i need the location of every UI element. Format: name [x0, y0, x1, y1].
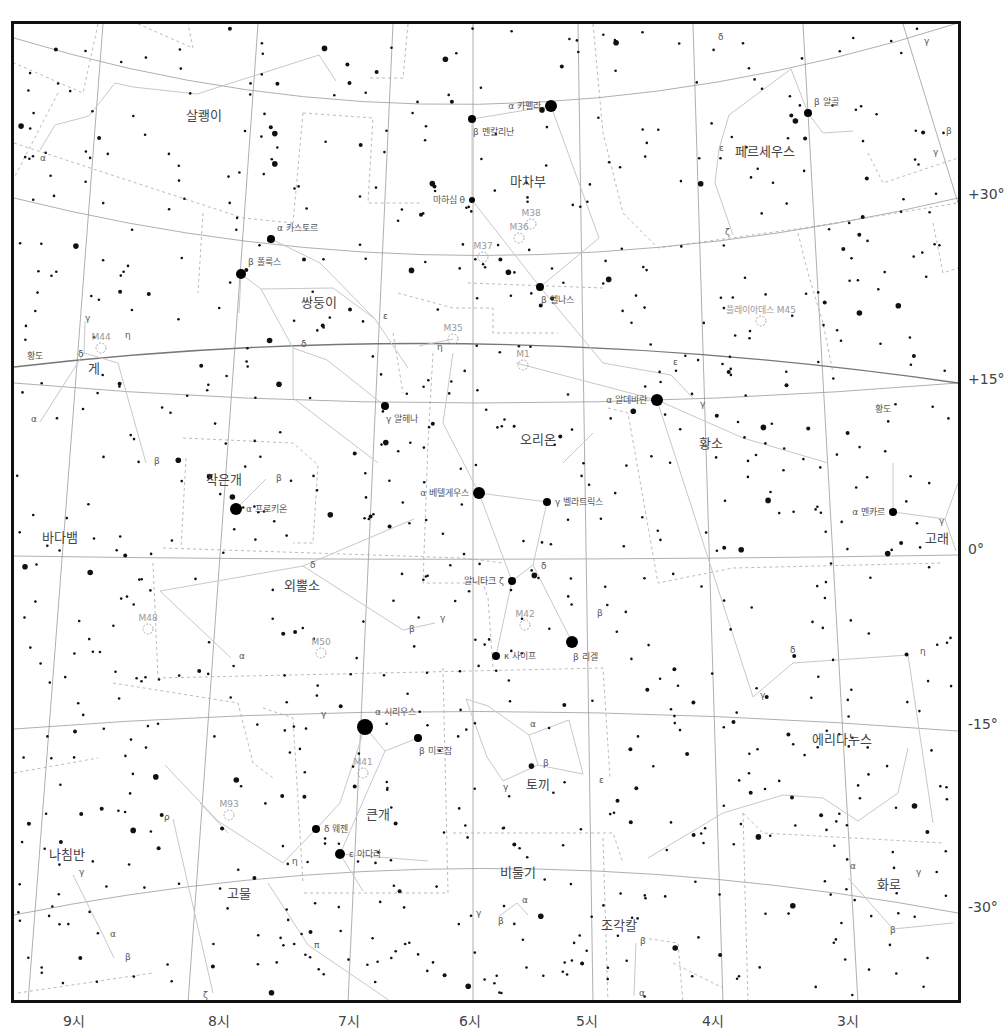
star: [417, 616, 420, 619]
star: [244, 130, 247, 133]
star: [284, 729, 287, 732]
star: [397, 450, 400, 453]
star: [738, 547, 744, 553]
star: [946, 642, 949, 645]
star: [59, 783, 62, 786]
star: [422, 578, 425, 581]
star: [621, 310, 624, 313]
star: [73, 756, 76, 759]
star: [124, 811, 127, 814]
right-ascension-label: 4시: [702, 1010, 724, 1030]
star: [79, 812, 83, 816]
star: [425, 519, 428, 522]
star: [157, 846, 161, 850]
star: [262, 52, 265, 55]
named-star: [545, 100, 557, 112]
star: [623, 545, 626, 548]
star: [950, 685, 953, 688]
star: [390, 957, 393, 960]
star: [45, 812, 48, 815]
star: [55, 270, 58, 273]
star: [786, 733, 790, 737]
star: [372, 513, 375, 516]
star: [423, 446, 426, 449]
star: [87, 503, 90, 506]
star: [225, 442, 228, 445]
star: [316, 684, 319, 687]
star: [362, 620, 365, 623]
star: [302, 627, 305, 630]
star: [567, 595, 570, 598]
star: [674, 722, 677, 725]
star: [316, 489, 319, 492]
greek-letter-label: γ: [916, 867, 922, 877]
star: [607, 966, 610, 969]
star: [388, 480, 391, 483]
star: [383, 151, 386, 154]
named-star: [566, 636, 578, 648]
star: [132, 115, 135, 118]
star: [56, 417, 59, 420]
declination-label: +30°: [968, 186, 1005, 202]
star: [785, 202, 788, 205]
star: [647, 644, 650, 647]
constellation-name: 게: [88, 361, 100, 376]
star: [285, 701, 288, 704]
star: [625, 611, 628, 614]
star: [895, 972, 898, 975]
named-star: [312, 825, 320, 833]
star: [73, 243, 79, 249]
star: [748, 752, 751, 755]
star: [691, 393, 694, 396]
star: [58, 863, 61, 866]
greek-letter-label: η: [437, 342, 443, 352]
star: [649, 343, 652, 346]
star: [582, 462, 585, 465]
star: [50, 757, 53, 760]
star: [449, 564, 452, 567]
star: [711, 672, 714, 675]
star: [161, 406, 164, 409]
star: [58, 893, 61, 896]
deep-sky-label: M42: [515, 609, 534, 619]
star: [245, 360, 248, 363]
star: [259, 456, 262, 459]
star: [803, 170, 806, 173]
star: [333, 94, 336, 97]
star: [312, 475, 315, 478]
star: [279, 937, 282, 940]
star: [606, 277, 612, 283]
star: [363, 517, 366, 520]
star: [129, 792, 132, 795]
star: [696, 81, 699, 84]
star: [936, 643, 939, 646]
star: [771, 422, 774, 425]
named-stars: α 카펠라β 멘칼리난마하심 θβ 알골α 카스토르β 폴룩스β 엘나스γ 알헤…: [230, 97, 897, 859]
star: [390, 859, 393, 862]
star: [328, 512, 334, 518]
star: [850, 688, 853, 691]
star: [916, 522, 919, 525]
star: [846, 824, 849, 827]
star: [32, 514, 35, 517]
star: [166, 963, 169, 966]
star: [220, 826, 224, 830]
star: [824, 880, 827, 883]
star-name-label: 알니타크 ζ: [464, 576, 504, 586]
star: [35, 563, 38, 566]
star: [178, 179, 181, 182]
star: [102, 259, 105, 262]
star: [269, 990, 275, 996]
right-ascension-label: 3시: [837, 1010, 859, 1030]
star: [397, 220, 400, 223]
star: [25, 325, 28, 328]
star: [425, 125, 428, 128]
star: [383, 440, 389, 446]
star: [568, 38, 571, 41]
star: [261, 42, 264, 45]
star: [289, 751, 292, 754]
star: [848, 280, 851, 283]
star: [508, 679, 511, 682]
star: [913, 916, 916, 919]
star: [664, 413, 667, 416]
